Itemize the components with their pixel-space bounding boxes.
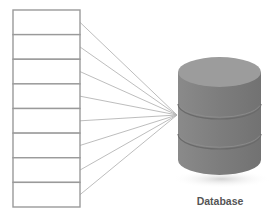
connector-line — [80, 22, 177, 115]
connector-line — [80, 72, 177, 115]
table-row — [13, 182, 80, 207]
connector-line — [80, 115, 177, 170]
database-top — [178, 57, 261, 87]
database-cylinder-icon — [172, 57, 271, 188]
table-row — [13, 133, 80, 158]
database-body — [178, 72, 261, 175]
connector-line — [80, 47, 177, 115]
connector-lines — [80, 22, 177, 194]
connector-line — [80, 115, 177, 195]
diagram-canvas: Database — [0, 0, 276, 222]
table-row — [13, 158, 80, 183]
table-row — [13, 10, 80, 35]
table-row — [13, 59, 80, 84]
database-label: Database — [178, 195, 262, 207]
record-table — [13, 10, 80, 207]
table-row — [13, 35, 80, 60]
table-row — [13, 84, 80, 109]
connector-line — [80, 96, 177, 115]
table-row — [13, 109, 80, 134]
diagram-svg — [0, 0, 276, 222]
